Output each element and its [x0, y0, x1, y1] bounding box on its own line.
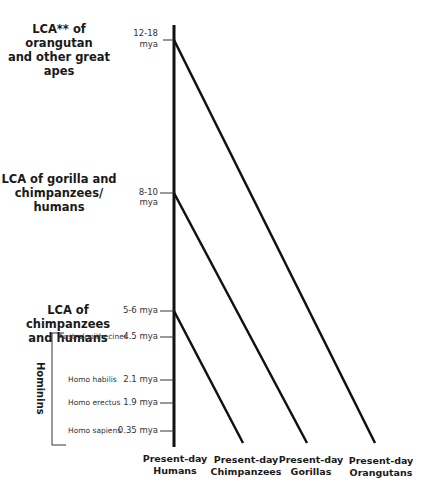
time-australopithecines: 4.5 mya — [120, 331, 158, 341]
label-line: chimpanzees/ — [0, 186, 118, 200]
present-day-humans: Present-day Humans — [140, 453, 210, 477]
hominins-group-label: Hominins — [35, 362, 46, 415]
time-homo-sapiens: 0.35 mya — [116, 425, 158, 435]
taxon-homo-habilis: Homo habilis — [68, 375, 117, 384]
time-line: mya — [130, 39, 158, 50]
label-line: and other great — [0, 50, 118, 64]
chimpanzee-branch — [174, 311, 243, 443]
label-line: LCA of gorilla and — [0, 172, 118, 186]
time-orangutan-lca: 12-18 mya — [130, 28, 158, 50]
present-day-chimpanzees: Present-day Chimpanzees — [208, 454, 284, 478]
label-line: apes — [0, 64, 118, 78]
node-label-gorilla-lca: LCA of gorilla and chimpanzees/ humans — [0, 172, 118, 214]
time-chimp-lca: 5-6 mya — [120, 305, 158, 315]
present-line: Present-day — [346, 455, 416, 467]
time-homo-erectus: 1.9 mya — [120, 397, 158, 407]
present-line: Present-day — [140, 453, 210, 465]
present-line: Humans — [140, 465, 210, 477]
taxon-homo-erectus: Homo erectus — [68, 398, 120, 407]
present-line: Present-day — [208, 454, 284, 466]
present-day-orangutans: Present-day Orangutans — [346, 455, 416, 479]
gorilla-branch — [174, 193, 307, 443]
present-line: Gorillas — [278, 466, 344, 478]
present-line: Present-day — [278, 454, 344, 466]
present-day-gorillas: Present-day Gorillas — [278, 454, 344, 478]
present-line: Orangutans — [346, 467, 416, 479]
node-label-orangutan-lca: LCA** of orangutan and other great apes — [0, 22, 118, 78]
present-line: Chimpanzees — [208, 466, 284, 478]
label-line: LCA** of orangutan — [0, 22, 118, 50]
label-line: LCA of chimpanzees — [14, 303, 122, 331]
time-line: 12-18 — [130, 28, 158, 39]
taxon-homo-sapiens: Homo sapiens — [68, 426, 121, 435]
time-homo-habilis: 2.1 mya — [120, 374, 158, 384]
hominins-bracket — [52, 333, 66, 445]
time-gorilla-lca: 8-10 mya — [118, 187, 158, 207]
label-line: humans — [0, 200, 118, 214]
taxon-australopithecines: Australopithecines — [58, 332, 118, 341]
